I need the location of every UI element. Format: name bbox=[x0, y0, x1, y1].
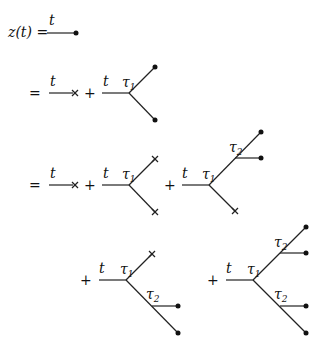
plus-sign: + bbox=[80, 272, 92, 288]
dot-icon bbox=[176, 331, 181, 336]
dot-icon bbox=[176, 304, 181, 309]
t-label: t bbox=[49, 12, 55, 28]
t-label: t bbox=[50, 165, 56, 181]
svg-text:τ1: τ1 bbox=[120, 261, 133, 279]
plus-sign: + bbox=[84, 85, 96, 101]
dot-icon bbox=[304, 251, 309, 256]
plus-sign: + bbox=[84, 177, 96, 193]
svg-text:τ2: τ2 bbox=[229, 139, 243, 157]
svg-text:τ1: τ1 bbox=[122, 166, 135, 184]
t-label: t bbox=[103, 73, 109, 89]
dot-icon bbox=[259, 156, 264, 161]
dot-icon bbox=[304, 225, 309, 230]
lhs-z-of-t: z(t) = bbox=[7, 24, 48, 40]
svg-text:τ2: τ2 bbox=[146, 286, 160, 304]
t-label: t bbox=[103, 165, 109, 181]
svg-text:τ1: τ1 bbox=[202, 166, 215, 184]
dot-icon bbox=[153, 118, 158, 123]
cross-icon bbox=[232, 208, 238, 214]
svg-text:τ1: τ1 bbox=[247, 261, 260, 279]
equals-sign: = bbox=[29, 177, 41, 193]
dot-icon bbox=[304, 331, 309, 336]
cross-icon bbox=[152, 209, 158, 215]
cross-icon bbox=[152, 156, 158, 162]
t-label: t bbox=[226, 260, 232, 276]
svg-text:τ2: τ2 bbox=[274, 234, 288, 252]
t-label: t bbox=[182, 165, 188, 181]
dot-icon bbox=[259, 130, 264, 135]
dot-icon bbox=[304, 304, 309, 309]
dot-icon bbox=[153, 65, 158, 70]
svg-text:τ2: τ2 bbox=[274, 286, 288, 304]
plus-sign: + bbox=[207, 272, 219, 288]
tree-expansion-diagram: z(t) = t = t + t τ1 = t + t τ1 + t τ1 τ2… bbox=[0, 0, 322, 352]
dot-icon bbox=[74, 31, 79, 36]
cross-icon bbox=[149, 251, 155, 257]
plus-sign: + bbox=[164, 177, 176, 193]
t-label: t bbox=[50, 73, 56, 89]
svg-text:τ1: τ1 bbox=[122, 74, 135, 92]
t-label: t bbox=[99, 260, 105, 276]
equals-sign: = bbox=[29, 85, 41, 101]
